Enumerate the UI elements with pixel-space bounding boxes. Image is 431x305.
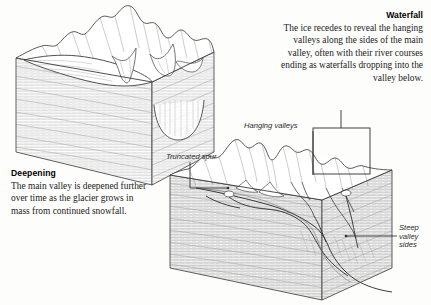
caption-waterfall-body: The ice recedes to reveal the hanging va… xyxy=(273,22,423,84)
caption-deepening: Deepening The main valley is deepened fu… xyxy=(11,168,151,217)
label-truncated-spur: Truncated spur xyxy=(166,152,217,161)
label-hanging-valleys: Hanging valleys xyxy=(244,121,298,130)
caption-deepening-body: The main valley is deepened further over… xyxy=(11,180,151,217)
label-steep-valley-sides: Steep valley sides xyxy=(399,224,419,250)
caption-deepening-heading: Deepening xyxy=(11,168,151,179)
caption-waterfall: Waterfall The ice recedes to reveal the … xyxy=(273,10,423,84)
caption-waterfall-heading: Waterfall xyxy=(273,10,423,21)
figure-canvas: Deepening The main valley is deepened fu… xyxy=(0,0,431,305)
